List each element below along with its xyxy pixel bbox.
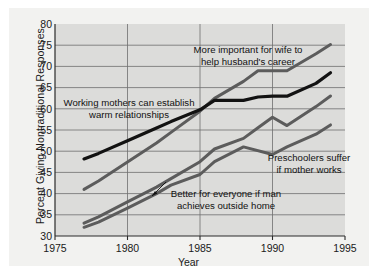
annotation-wife-career: More important for wife to help husband'… bbox=[178, 44, 318, 67]
annotation-better-for-everyone-line1: Better for everyone if man bbox=[158, 188, 294, 200]
plot-canvas bbox=[0, 0, 377, 274]
x-tick-marks bbox=[55, 236, 345, 240]
x-tick-label-1980: 1980 bbox=[106, 243, 150, 253]
y-tick-label-75: 75 bbox=[24, 40, 52, 50]
y-tick-label-65: 65 bbox=[24, 82, 52, 92]
y-tick-label-55: 55 bbox=[24, 125, 52, 135]
annotation-wife-career-line1: More important for wife to bbox=[178, 44, 318, 56]
y-tick-label-30: 30 bbox=[24, 231, 52, 241]
annotation-warm-relationships-line1: Working mothers can establish bbox=[54, 97, 204, 109]
annotation-warm-relationships-line2: warm relationships bbox=[54, 109, 204, 121]
y-tick-label-35: 35 bbox=[24, 209, 52, 219]
x-tick-label-1975: 1975 bbox=[33, 243, 77, 253]
x-tick-label-1985: 1985 bbox=[178, 243, 222, 253]
x-tick-label-1995: 1995 bbox=[323, 243, 367, 253]
annotation-preschoolers-line2: if mother works bbox=[253, 164, 365, 176]
chart-figure: Percent Giving Nontraditional Responses … bbox=[0, 0, 377, 274]
annotation-preschoolers: Preschoolers suffer if mother works bbox=[253, 152, 365, 175]
y-tick-label-70: 70 bbox=[24, 61, 52, 71]
y-tick-label-45: 45 bbox=[24, 167, 52, 177]
annotation-better-for-everyone: Better for everyone if man achieves outs… bbox=[158, 188, 294, 211]
annotation-better-for-everyone-line2: achieves outside home bbox=[158, 200, 294, 212]
annotation-wife-career-line2: help husband's career bbox=[178, 56, 318, 68]
y-tick-label-60: 60 bbox=[24, 104, 52, 114]
y-tick-label-50: 50 bbox=[24, 146, 52, 156]
annotation-warm-relationships: Working mothers can establish warm relat… bbox=[54, 97, 204, 120]
x-tick-label-1990: 1990 bbox=[251, 243, 295, 253]
x-axis-title: Year bbox=[0, 256, 377, 268]
y-tick-label-80: 80 bbox=[24, 19, 52, 29]
y-tick-label-40: 40 bbox=[24, 188, 52, 198]
annotation-preschoolers-line1: Preschoolers suffer bbox=[253, 152, 365, 164]
